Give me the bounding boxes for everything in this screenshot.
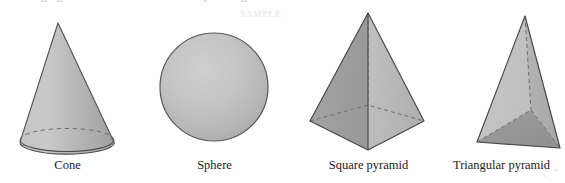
caption-triangular-pyramid: Triangular pyramid bbox=[438, 158, 565, 173]
caption-cone: Cone bbox=[0, 158, 135, 173]
caption-sphere: Sphere bbox=[147, 158, 282, 173]
sphere-body bbox=[160, 33, 268, 141]
cone-figure bbox=[20, 23, 114, 154]
triangular-pyramid-figure bbox=[477, 16, 560, 148]
scan-speckle bbox=[544, 175, 546, 177]
solid-figures-illustration: ding figures to find the volume of compo… bbox=[0, 0, 565, 183]
cone-body bbox=[20, 23, 114, 154]
square-pyramid-figure bbox=[310, 13, 424, 150]
caption-square-pyramid: Square pyramid bbox=[296, 158, 441, 173]
sphere-figure bbox=[160, 33, 268, 141]
square-pyramid-right-face-overlay bbox=[368, 13, 424, 150]
square-pyramid-left-face-overlay bbox=[310, 13, 368, 150]
figures-canvas bbox=[0, 0, 565, 183]
